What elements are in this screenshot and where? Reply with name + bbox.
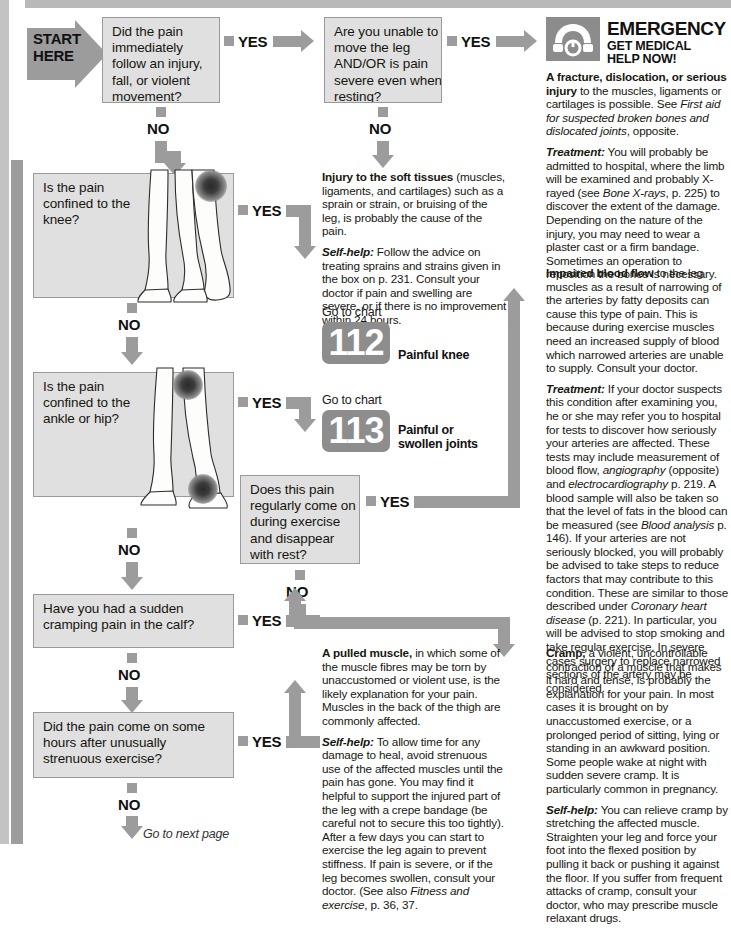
emergency-title: EMERGENCY xyxy=(607,18,726,40)
left-margin-bar xyxy=(11,160,23,844)
connector-q5-no-h xyxy=(294,617,510,629)
no-chip-6 xyxy=(127,653,137,663)
connector-q2-yes-stem xyxy=(496,36,524,47)
chart-caption-113-line1: Painful or xyxy=(398,423,454,437)
impaired-p2-lead: Treatment: xyxy=(546,382,605,395)
no-chip-3 xyxy=(127,303,137,313)
no-label-7: NO xyxy=(118,796,140,813)
impaired-p2-i2: electrocardiography xyxy=(568,477,668,490)
yes-label-2: YES xyxy=(461,33,490,50)
connector-q7-no-head xyxy=(121,826,143,839)
soft-tissue-p2-lead: Self-help: xyxy=(322,245,374,258)
question-4-text: Is the pain confined to the ankle or hip… xyxy=(43,379,139,428)
pulled-muscle-paragraph-1: A pulled muscle, in which some of the mu… xyxy=(322,646,508,728)
impaired-paragraph-1: Impaired blood flow to the leg muscles a… xyxy=(546,266,729,375)
pain-spot-ankle xyxy=(188,474,218,504)
no-label-6: NO xyxy=(118,666,140,683)
connector-q6-yes-v xyxy=(289,600,301,627)
cramp-p1-rest: a violent, uncontrollable contraction of… xyxy=(546,646,722,795)
yes-label-5: YES xyxy=(380,493,409,510)
emergency-p1-tail: , opposite. xyxy=(627,124,679,137)
yes-chip-2 xyxy=(447,36,457,46)
cramp-paragraph-2: Self-help: You can relieve cramp by stre… xyxy=(546,803,729,925)
question-6-text: Have you had a sudden cramping pain in t… xyxy=(43,601,231,633)
question-7-text: Did the pain come on some hours after un… xyxy=(43,719,221,768)
yes-chip-4 xyxy=(238,397,248,407)
emergency-paragraph-2: Treatment: You will probably be admitted… xyxy=(546,145,729,281)
chart-badge-113[interactable]: 113 xyxy=(322,410,390,452)
question-2-text: Are you unable to move the leg AND/OR is… xyxy=(334,24,442,103)
connector-q7-yes-head xyxy=(284,680,306,693)
left-margin-bar-top-gap xyxy=(11,0,23,160)
pulled-muscle-p2-b: , p. 36, 37. xyxy=(364,898,417,911)
soft-tissue-paragraph-1: Injury to the soft tissues (muscles, lig… xyxy=(322,170,508,238)
top-rule xyxy=(25,0,731,8)
emergency-subtitle-line2: HELP NOW! xyxy=(607,53,677,67)
yes-chip-7 xyxy=(238,736,248,746)
goto-chart-label-113: Go to chart xyxy=(322,393,382,407)
question-box-5[interactable]: Does this pain regularly come on during … xyxy=(240,475,360,564)
question-1-text: Did the pain immediately follow an injur… xyxy=(112,24,218,103)
question-3-text: Is the pain confined to the knee? xyxy=(43,180,139,229)
go-to-next-page-label[interactable]: Go to next page xyxy=(143,827,229,841)
pulled-muscle-p1-lead: A pulled muscle, xyxy=(322,646,412,659)
pain-spot-hip xyxy=(173,370,203,400)
pulled-muscle-p2-a: To allow time for any damage to heal, av… xyxy=(322,735,504,898)
start-here-label-line1: START xyxy=(33,30,81,47)
yes-chip-6 xyxy=(238,615,248,625)
connector-q3-yes-head xyxy=(294,246,316,259)
no-chip-1 xyxy=(156,107,166,117)
telephone-icon xyxy=(546,17,600,61)
connector-q5-yes-v xyxy=(508,300,520,508)
question-box-2[interactable]: Are you unable to move the leg AND/OR is… xyxy=(324,17,442,103)
connector-q1-yes-stem xyxy=(273,36,301,47)
yes-label-3: YES xyxy=(252,202,281,219)
cramp-panel: Cramp, a violent, uncontrollable contrac… xyxy=(546,646,729,928)
start-here-label-line2: HERE xyxy=(33,47,74,64)
soft-tissue-p1-lead: Injury to the soft tissues xyxy=(322,170,453,183)
impaired-p2-i1: angiography xyxy=(603,463,666,476)
cramp-p2-lead: Self-help: xyxy=(546,803,598,816)
connector-q2-no-head xyxy=(372,155,394,168)
connector-q7-yes-v xyxy=(289,692,301,748)
impaired-p2-a: If your doctor suspects this condition a… xyxy=(546,382,722,477)
emergency-paragraph-1: A fracture, dislocation, or serious inju… xyxy=(546,70,729,138)
question-box-7[interactable]: Did the pain come on some hours after un… xyxy=(33,712,234,778)
pulled-muscle-p2-lead: Self-help: xyxy=(322,735,374,748)
impaired-blood-flow-panel: Impaired blood flow to the leg muscles a… xyxy=(546,266,729,701)
connector-q5-yes-h xyxy=(414,496,520,508)
impaired-p2-d: p. 146). If your arteries are not seriou… xyxy=(546,518,728,613)
question-box-6[interactable]: Have you had a sudden cramping pain in t… xyxy=(33,594,234,648)
connector-q3-no-head xyxy=(121,352,143,365)
chart-caption-113-line2: swollen joints xyxy=(398,437,478,451)
chart-badge-112[interactable]: 112 xyxy=(322,322,390,364)
left-margin-rule xyxy=(0,0,9,844)
no-label-4: NO xyxy=(118,541,140,558)
pain-spot-knee xyxy=(195,170,227,202)
connector-q4-yes-head xyxy=(294,419,316,432)
yes-chip-1 xyxy=(224,36,234,46)
connector-q4-no-head xyxy=(121,577,143,590)
emergency-body: A fracture, dislocation, or serious inju… xyxy=(546,70,729,288)
question-box-1[interactable]: Did the pain immediately follow an injur… xyxy=(102,17,220,103)
no-label-2: NO xyxy=(369,120,391,137)
impaired-p1-rest: to the leg muscles as a result of narrow… xyxy=(546,266,723,374)
connector-q5-yes-head xyxy=(503,288,525,301)
no-chip-5 xyxy=(295,570,305,580)
legs-illustration-ankle xyxy=(135,366,235,511)
telephone-icon-glyph xyxy=(546,17,600,61)
cramp-p2-rest: You can relieve cramp by stretching the … xyxy=(546,803,728,925)
yes-label-7: YES xyxy=(252,733,281,750)
chart-caption-112: Painful knee xyxy=(398,348,469,362)
connector-q6-yes-head xyxy=(284,588,306,601)
connector-q2-yes-head xyxy=(524,30,537,52)
emergency-p2-lead: Treatment: xyxy=(546,145,605,158)
connector-q3-yes-v xyxy=(299,205,311,250)
connector-q1-yes-head xyxy=(301,30,314,52)
cramp-p1-lead: Cramp, xyxy=(546,646,585,659)
impaired-p1-lead: Impaired blood flow xyxy=(546,266,654,279)
pulled-muscle-panel: A pulled muscle, in which some of the mu… xyxy=(322,646,508,918)
yes-label-1: YES xyxy=(238,33,267,50)
impaired-p2-i3: Blood analysis xyxy=(641,518,714,531)
